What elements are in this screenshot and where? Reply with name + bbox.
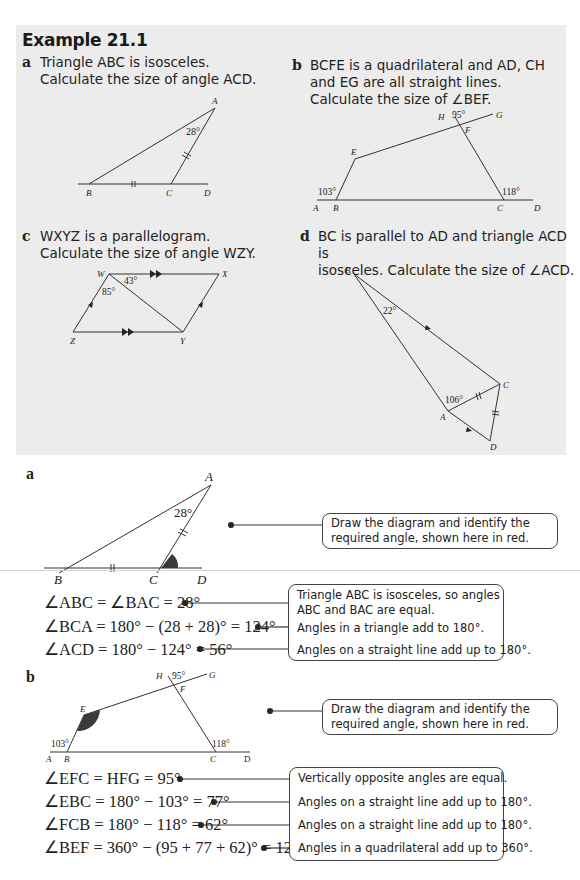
svg-text:F: F xyxy=(179,684,186,694)
note-text: Angles on a straight line add up to 180°… xyxy=(298,818,532,833)
equation-a-2: ∠BCA = 180° − (28 + 28)° = 124° xyxy=(44,617,276,637)
divider xyxy=(0,570,580,571)
svg-text:28°: 28° xyxy=(174,505,192,520)
question-label: a xyxy=(22,54,31,71)
solution-label-a: a xyxy=(26,465,34,483)
svg-text:G: G xyxy=(209,670,216,680)
svg-text:H: H xyxy=(155,671,163,681)
equation-a-3: ∠ACD = 180° − 124° = 56° xyxy=(44,640,232,660)
solution-label-b: b xyxy=(26,668,35,686)
question-text-line: BCFE is a quadrilateral and AD, CH xyxy=(310,57,545,74)
equation-b-2: ∠EBC = 180° − 103° = 77° xyxy=(44,792,230,812)
question-text-line: isosceles. Calculate the size of ∠ACD. xyxy=(318,262,580,279)
question-text-line: Triangle ABC is isosceles. xyxy=(40,54,256,71)
question-label: b xyxy=(292,57,302,74)
svg-text:D: D xyxy=(244,754,251,764)
question-text-line: and EG are all straight lines. xyxy=(310,74,545,91)
svg-text:B: B xyxy=(54,572,62,587)
question-label: d xyxy=(300,228,310,245)
question-text-line: Calculate the size of angle ACD. xyxy=(40,71,256,88)
question-label: c xyxy=(22,228,31,245)
note-text: Angles on a straight line add up to 180°… xyxy=(298,795,532,810)
note-box-steps-a: Triangle ABC is isosceles, so angles ABC… xyxy=(288,584,504,661)
question-d: d BC is parallel to AD and triangle ACD … xyxy=(318,228,580,279)
svg-text:B: B xyxy=(64,754,70,764)
question-b: b BCFE is a quadrilateral and AD, CH and… xyxy=(310,57,545,108)
svg-text:103°: 103° xyxy=(51,739,69,749)
equation-b-3: ∠FCB = 180° − 118° = 62° xyxy=(44,815,228,835)
svg-text:118°: 118° xyxy=(212,739,230,749)
question-text-line: Calculate the size of ∠BEF. xyxy=(310,91,545,108)
svg-text:A: A xyxy=(204,469,213,484)
svg-text:C: C xyxy=(149,572,158,587)
note-text: Triangle ABC is isosceles, so angles ABC… xyxy=(297,588,503,618)
question-text-line: Calculate the size of angle WZY. xyxy=(40,245,256,262)
note-box-steps-b: Vertically opposite angles are equal. An… xyxy=(289,767,504,861)
svg-text:A: A xyxy=(45,754,52,764)
note-text: Angles in a triangle add to 180°. xyxy=(297,621,484,636)
note-box-draw-diagram-b: Draw the diagram and identify the requir… xyxy=(322,699,558,735)
note-text: Vertically opposite angles are equal. xyxy=(298,771,507,786)
question-text-line: BC is parallel to AD and triangle ACD is xyxy=(318,228,580,262)
equation-b-1: ∠EFC = HFG = 95° xyxy=(44,769,180,789)
question-text-line: WXYZ is a parallelogram. xyxy=(40,228,256,245)
svg-text:D: D xyxy=(196,572,207,587)
note-box-draw-diagram-a: Draw the diagram and identify the requir… xyxy=(322,513,558,549)
question-a: a Triangle ABC is isosceles. Calculate t… xyxy=(40,54,256,88)
example-title: Example 21.1 xyxy=(22,30,148,50)
svg-text:E: E xyxy=(79,704,86,714)
note-text: Draw the diagram and identify the requir… xyxy=(331,702,553,732)
equation-a-1: ∠ABC = ∠BAC = 28° xyxy=(44,593,200,613)
equation-b-4: ∠BEF = 360° − (95 + 77 + 62)° = 126° xyxy=(44,838,307,858)
note-text: Angles in a quadrilateral add up to 360°… xyxy=(298,841,533,856)
note-text: Draw the diagram and identify the requir… xyxy=(331,516,553,546)
svg-text:C: C xyxy=(210,754,217,764)
note-text: Angles on a straight line add up to 180°… xyxy=(297,643,531,658)
question-c: c WXYZ is a parallelogram. Calculate the… xyxy=(40,228,256,262)
svg-text:95°: 95° xyxy=(172,671,186,681)
